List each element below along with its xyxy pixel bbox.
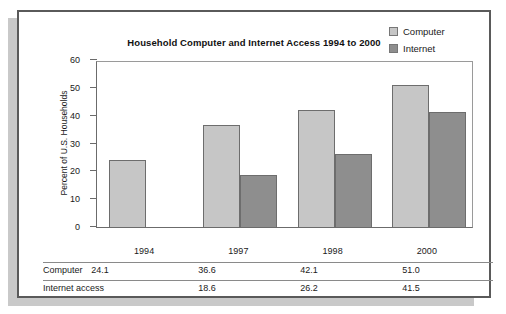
chart-figure-frame: Household Computer and Internet Access 1… — [17, 10, 491, 298]
x-axis-label-1994: 1994 — [134, 246, 154, 256]
y-axis-tick-label: 20 — [70, 166, 80, 176]
bar-group — [203, 62, 277, 227]
chart-legend: Computer Internet — [389, 24, 475, 58]
bar-internet[interactable] — [335, 154, 372, 227]
y-axis-title-text: Percent of U.S. Households — [59, 91, 69, 196]
table-row: Computer 24.1 36.6 42.1 51.0 — [43, 262, 493, 280]
bar-computer[interactable] — [392, 85, 429, 227]
y-axis-tick: 20 — [90, 170, 97, 171]
y-axis-tick: 10 — [90, 198, 97, 199]
table-row: Internet access 18.6 26.2 41.5 — [43, 280, 493, 298]
legend-item-computer[interactable]: Computer — [389, 24, 475, 39]
bar-computer[interactable] — [203, 125, 240, 227]
plot-area: 0102030405060 — [96, 61, 473, 228]
x-axis-label-2000: 2000 — [417, 246, 437, 256]
x-axis-label-1997: 1997 — [228, 246, 248, 256]
legend-item-internet[interactable]: Internet — [389, 41, 475, 56]
bar-group — [109, 62, 183, 227]
table-cell: 51.0 — [402, 265, 420, 275]
y-axis-title: Percent of U.S. Households — [57, 57, 71, 229]
y-axis-tick-label: 40 — [70, 111, 80, 121]
bar-computer[interactable] — [298, 110, 335, 227]
bar-computer[interactable] — [109, 160, 146, 227]
table-cell: 18.6 — [198, 283, 216, 293]
bar-internet[interactable] — [240, 175, 277, 227]
y-axis-tick: 30 — [90, 143, 97, 144]
y-axis-tick: 50 — [90, 87, 97, 88]
data-value-table: Computer 24.1 36.6 42.1 51.0 Internet ac… — [43, 262, 493, 298]
x-axis-category-labels: 1994199719982000 — [96, 246, 477, 260]
y-axis-tick-label: 0 — [75, 222, 80, 232]
legend-swatch-internet-icon — [389, 44, 398, 53]
bar-internet[interactable] — [429, 112, 466, 228]
y-axis-tick: 40 — [90, 115, 97, 116]
plot-wrapper: Percent of U.S. Households 0102030405060 — [59, 57, 477, 243]
table-cell: 24.1 — [91, 265, 109, 275]
y-axis-tick: 60 — [90, 59, 97, 60]
table-cell: 26.2 — [300, 283, 318, 293]
bar-group — [298, 62, 372, 227]
y-axis-tick: 0 — [90, 226, 97, 227]
legend-swatch-computer-icon — [389, 27, 398, 36]
x-axis-label-1998: 1998 — [323, 246, 343, 256]
legend-label-computer: Computer — [403, 26, 445, 37]
table-cell: 42.1 — [300, 265, 318, 275]
table-cell: 36.6 — [198, 265, 216, 275]
table-row-label-internet-access: Internet access — [43, 283, 104, 293]
y-axis-tick-label: 10 — [70, 194, 80, 204]
table-row-label-computer: Computer — [43, 265, 83, 275]
y-axis-tick-label: 30 — [70, 139, 80, 149]
legend-label-internet: Internet — [403, 43, 435, 54]
y-axis-tick-label: 50 — [70, 83, 80, 93]
bar-group — [392, 62, 466, 227]
y-axis-tick-label: 60 — [70, 55, 80, 65]
table-cell: 41.5 — [402, 283, 420, 293]
